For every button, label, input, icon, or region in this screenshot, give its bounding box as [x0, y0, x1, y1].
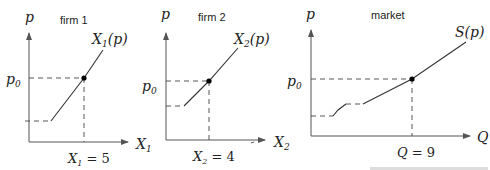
quantity-label: Q = 9 — [397, 145, 435, 160]
panel-market: p market S(p) p0 Q Q = 9 — [287, 6, 489, 160]
supply-curve-firm-2 — [184, 48, 238, 106]
supply-curve-firm-1 — [51, 50, 103, 121]
curve-label: X1(p) — [91, 31, 128, 49]
equilibrium-point — [81, 75, 86, 80]
supply-aggregation-diagram: p firm 1 X1(p) p0 X1 X1 = 5 p firm 2 X2(… — [0, 0, 490, 170]
curve-label: S(p) — [455, 24, 484, 40]
quantity-label: X1 = 5 — [67, 151, 110, 168]
price-label: p0 — [287, 73, 302, 91]
market-supply-curve — [363, 42, 466, 104]
panel-title: firm 1 — [60, 14, 88, 26]
y-axis-label: p — [25, 9, 34, 25]
y-axis-label: p — [161, 6, 170, 22]
x-axis-label: X2 — [273, 134, 290, 152]
price-label: p0 — [142, 78, 157, 96]
x-axis-label: Q — [477, 129, 489, 145]
market-supply-segment-1 — [333, 104, 346, 116]
y-axis-label: p — [306, 6, 315, 22]
equilibrium-point — [409, 76, 414, 81]
quantity-label: X2 = 4 — [192, 149, 235, 166]
panel-firm-1: p firm 1 X1(p) p0 X1 X1 = 5 — [6, 9, 152, 168]
panel-title: market — [371, 9, 405, 21]
curve-label: X2(p) — [233, 31, 270, 49]
panel-title: firm 2 — [198, 11, 226, 23]
equilibrium-point — [206, 78, 211, 83]
panel-firm-2: p firm 2 X2(p) p0 X2 X2 = 4 — [142, 6, 290, 166]
stray-mark — [251, 142, 254, 143]
clipped-caption-text — [370, 167, 488, 170]
x-axis-label: X1 — [135, 136, 152, 154]
price-label: p0 — [6, 71, 21, 89]
